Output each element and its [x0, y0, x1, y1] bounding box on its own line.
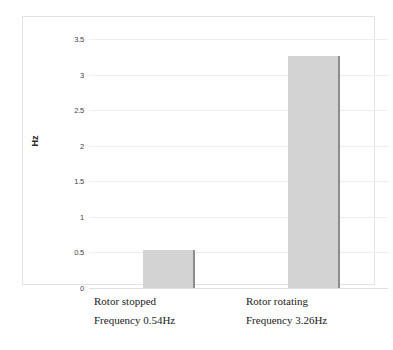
gridline-3: 3 — [89, 75, 388, 76]
gridline-1: 1 — [89, 217, 388, 218]
plot-frame: 3.5 3 2.5 2 1.5 1 0.5 0 — [22, 16, 375, 285]
y-tick-label-0.5: 0.5 — [74, 248, 84, 257]
gridline-2: 2 — [89, 146, 388, 147]
category-captions: Rotor stopped Frequency 0.54Hz Rotor rot… — [0, 292, 393, 342]
bar-rotor-rotating[interactable] — [288, 56, 340, 288]
bar-rotor-stopped[interactable] — [143, 250, 195, 288]
caption-rotor-rotating-frequency: Frequency 3.26Hz — [246, 311, 327, 330]
y-tick-label-3: 3 — [80, 70, 84, 79]
caption-rotor-stopped-title: Rotor stopped — [94, 292, 175, 311]
gridline-0-baseline: 0 — [89, 288, 388, 289]
y-tick-label-3.5: 3.5 — [74, 35, 84, 44]
gridline-2.5: 2.5 — [89, 110, 388, 111]
caption-rotor-stopped: Rotor stopped Frequency 0.54Hz — [94, 292, 175, 330]
y-tick-label-2.5: 2.5 — [74, 106, 84, 115]
y-tick-label-1.5: 1.5 — [74, 177, 84, 186]
bar-chart-figure: 3.5 3 2.5 2 1.5 1 0.5 0 — [0, 0, 393, 350]
caption-rotor-rotating: Rotor rotating Frequency 3.26Hz — [246, 292, 327, 330]
plot-area: 3.5 3 2.5 2 1.5 1 0.5 0 — [89, 39, 388, 288]
y-tick-label-1: 1 — [80, 212, 84, 221]
caption-rotor-rotating-title: Rotor rotating — [246, 292, 327, 311]
gridline-3.5: 3.5 — [89, 39, 388, 40]
caption-rotor-stopped-frequency: Frequency 0.54Hz — [94, 311, 175, 330]
gridline-1.5: 1.5 — [89, 181, 388, 182]
gridline-0.5: 0.5 — [89, 252, 388, 253]
y-tick-label-2: 2 — [80, 141, 84, 150]
y-axis-title: Hz — [30, 134, 40, 148]
